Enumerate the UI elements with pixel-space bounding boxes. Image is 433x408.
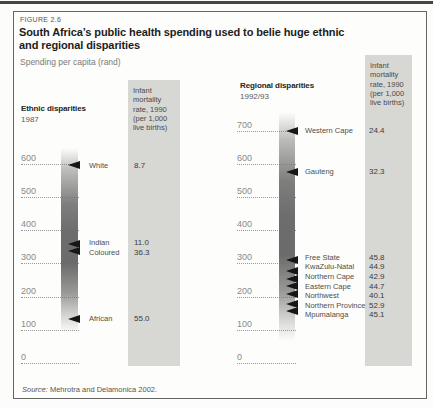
source-text: Mehrotra and Delamonica 2002. xyxy=(48,385,157,394)
axis-tick-label: 100 xyxy=(237,319,252,329)
imr-value: 52.9 xyxy=(369,301,385,310)
figure-title-line2: and regional disparities xyxy=(19,39,344,52)
imr-column-regional: Infant mortality rate, 1990 (per 1,000 l… xyxy=(365,55,412,366)
marker-arrow-icon xyxy=(68,247,80,255)
marker-arrow-icon xyxy=(286,256,298,264)
imr-value: 24.4 xyxy=(369,126,385,135)
imr-column-header: Infant mortality rate, 1990 (per 1,000 l… xyxy=(365,55,412,107)
axis-gridline xyxy=(237,363,296,364)
source-prefix: Source: xyxy=(22,385,48,394)
marker-arrow-icon xyxy=(286,307,298,315)
page-top-rule xyxy=(0,1,433,4)
marker-label: Western Cape xyxy=(305,126,353,135)
axis-tick-label: 0 xyxy=(21,352,26,362)
marker-label: Northwest xyxy=(305,291,339,300)
axis-tick-label: 200 xyxy=(237,286,252,296)
figure-title: South Africa’s public health spending us… xyxy=(19,26,344,51)
marker-arrow-icon xyxy=(286,282,298,290)
source-note: Source: Mehrotra and Delamonica 2002. xyxy=(22,385,157,394)
axis-tick-label: 300 xyxy=(237,252,252,262)
imr-value: 32.3 xyxy=(369,167,385,176)
imr-value: 40.1 xyxy=(369,291,385,300)
imr-value: 8.7 xyxy=(134,161,145,170)
axis-tick-label: 600 xyxy=(21,153,36,163)
imr-column-ethnic: Infant mortality rate, 1990 (per 1,000 l… xyxy=(128,80,180,366)
imr-value: 36.3 xyxy=(134,248,150,257)
marker-label: Mpumalanga xyxy=(305,310,348,319)
regional-chart-year: 1992/93 xyxy=(240,92,269,101)
axis-tick-label: 700 xyxy=(237,120,252,130)
imr-value: 11.0 xyxy=(134,238,149,247)
figure-2-6: FIGURE 2.6 South Africa’s public health … xyxy=(0,0,433,408)
regional-chart-heading: Regional disparities xyxy=(240,81,314,90)
axis-tick-label: 300 xyxy=(21,252,36,262)
marker-arrow-icon xyxy=(286,290,298,298)
imr-value: 44.7 xyxy=(369,282,385,291)
ethnic-chart-heading: Ethnic disparities xyxy=(21,104,86,113)
axis-tick-label: 0 xyxy=(237,352,242,362)
marker-label: Eastern Cape xyxy=(305,282,351,291)
axis-tick-label: 500 xyxy=(237,186,252,196)
marker-label: White xyxy=(89,161,108,170)
axis-tick-label: 400 xyxy=(21,219,36,229)
figure-title-line1: South Africa’s public health spending us… xyxy=(19,26,344,39)
marker-arrow-icon xyxy=(68,161,80,169)
imr-value: 45.8 xyxy=(369,253,385,262)
marker-arrow-icon xyxy=(286,127,298,135)
imr-value: 55.0 xyxy=(134,314,150,323)
axis-tick-label: 500 xyxy=(21,186,36,196)
marker-label: Northern Cape xyxy=(305,272,354,281)
marker-label: Indian xyxy=(89,238,109,247)
imr-value: 44.9 xyxy=(369,262,385,271)
marker-arrow-icon xyxy=(286,168,298,176)
marker-label: Coloured xyxy=(89,248,119,257)
imr-column-header: Infant mortality rate, 1990 (per 1,000 l… xyxy=(128,80,180,132)
axis-unit-label: Spending per capita (rand) xyxy=(20,57,121,67)
marker-label: Gauteng xyxy=(305,167,334,176)
figure-label: FIGURE 2.6 xyxy=(20,16,61,23)
axis-gridline xyxy=(21,363,79,364)
marker-label: KwaZulu-Natal xyxy=(305,262,354,271)
axis-tick-label: 200 xyxy=(21,286,36,296)
ethnic-chart-year: 1987 xyxy=(21,115,39,124)
imr-value: 45.1 xyxy=(369,310,385,319)
axis-tick-label: 600 xyxy=(237,153,252,163)
imr-value: 42.9 xyxy=(369,272,385,281)
axis-tick-label: 400 xyxy=(237,219,252,229)
marker-arrow-icon xyxy=(68,315,80,323)
marker-label: African xyxy=(89,314,112,323)
marker-label: Northern Province xyxy=(305,301,365,310)
axis-tick-label: 100 xyxy=(21,319,36,329)
marker-label: Free State xyxy=(305,253,340,262)
